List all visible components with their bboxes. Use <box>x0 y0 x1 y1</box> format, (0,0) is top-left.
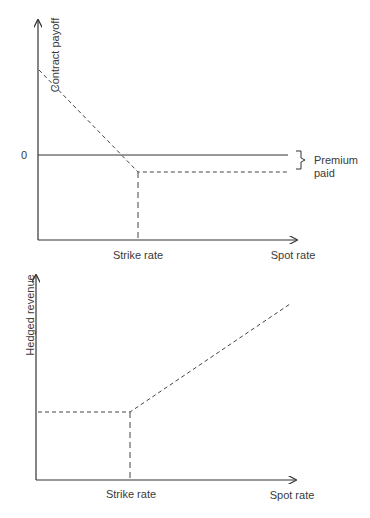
top-y-axis-label: Contract payoff <box>49 17 61 92</box>
bottom-panel: Hedged revenue Strike rate Spot rate <box>24 274 314 501</box>
premium-brace-icon <box>296 151 305 169</box>
bottom-x-axis-label: Spot rate <box>270 489 315 501</box>
premium-label-1: Premium <box>314 154 358 166</box>
diagram-canvas: Premium paid 0 Contract payoff Strike ra… <box>0 0 370 518</box>
hedged-revenue-line <box>38 304 290 412</box>
bottom-y-axis-label: Hedged revenue <box>24 274 36 355</box>
top-panel: Premium paid 0 Contract payoff Strike ra… <box>21 17 358 261</box>
premium-label-2: paid <box>314 167 335 179</box>
payoff-line <box>39 70 288 172</box>
top-x-axis-label: Spot rate <box>271 249 316 261</box>
bottom-strike-label: Strike rate <box>106 488 156 500</box>
zero-label: 0 <box>21 149 27 161</box>
top-strike-label: Strike rate <box>113 249 163 261</box>
